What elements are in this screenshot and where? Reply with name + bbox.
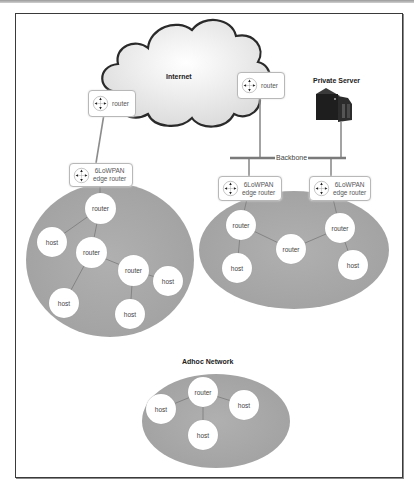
edge-router-line1: 6LoWPAN <box>95 167 125 174</box>
router-label: router <box>261 82 278 90</box>
edge-router-left[interactable]: 6LoWPANedge router <box>69 163 133 187</box>
right-node-host-1[interactable]: host <box>222 253 252 283</box>
left-node-host-2[interactable]: host <box>153 266 183 296</box>
left-node-router-1[interactable]: router <box>85 193 116 224</box>
edge-router-line2: edge router <box>242 189 275 196</box>
edge-router-right-a[interactable]: 6LoWPANedge router <box>218 176 282 201</box>
router-icon <box>241 77 258 94</box>
right-node-router-2[interactable]: router <box>276 234 306 264</box>
left-node-router-3[interactable]: router <box>118 255 149 286</box>
edge-router-line1: 6LoWPAN <box>335 181 365 188</box>
left-node-host-3[interactable]: host <box>49 288 79 318</box>
private-server-label: Private Server <box>313 77 360 84</box>
right-node-router-3[interactable]: router <box>325 213 355 243</box>
edge-router-right-b[interactable]: 6LoWPANedge router <box>309 176 371 201</box>
backbone-label: Backbone <box>276 154 307 162</box>
router-icon <box>73 167 90 184</box>
router-icon <box>222 180 239 197</box>
edge-router-line2: edge router <box>93 175 126 182</box>
internet-router-right[interactable]: router <box>237 72 285 99</box>
adhoc-node-host-2[interactable]: host <box>229 390 259 420</box>
edge-router-line1: 6LoWPAN <box>244 181 274 188</box>
edge-router-line2: edge router <box>333 189 366 196</box>
adhoc-node-router[interactable]: router <box>188 377 218 407</box>
left-node-host-4[interactable]: host <box>115 299 145 329</box>
adhoc-node-host-3[interactable]: host <box>188 420 218 450</box>
router-icon <box>92 95 109 112</box>
server-icon <box>316 88 352 122</box>
router-icon <box>313 180 330 197</box>
router-label: router <box>112 100 129 108</box>
left-node-host-1[interactable]: host <box>37 227 67 257</box>
adhoc-network-title: Adhoc Network <box>182 358 233 365</box>
left-node-router-2[interactable]: router <box>76 237 107 268</box>
right-node-host-2[interactable]: host <box>338 250 368 280</box>
right-node-router-1[interactable]: router <box>226 210 256 240</box>
internet-label: Internet <box>166 73 192 80</box>
internet-router-left[interactable]: router <box>88 90 136 117</box>
adhoc-node-host-1[interactable]: host <box>146 394 176 424</box>
